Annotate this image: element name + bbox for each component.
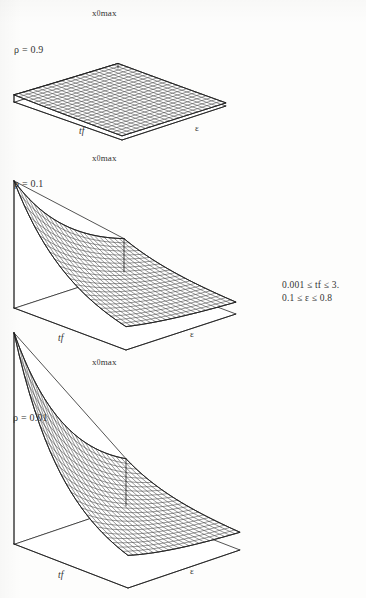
x-axis-label: tf — [58, 570, 64, 580]
x-axis-label: tf — [58, 333, 64, 343]
y-axis-label: ε — [195, 123, 199, 133]
z-axis-label: x0max — [92, 357, 117, 367]
y-axis-label: ε — [190, 329, 194, 339]
z-axis-label: x0max — [92, 8, 117, 18]
range-line-epsilon: 0.1 ≤ ε ≤ 0.8 — [282, 292, 339, 305]
surface-panel-rho-0-1: x0max ρ = 0.1 tf ε — [0, 148, 270, 353]
rho-parameter-label: ρ = 0.9 — [14, 44, 44, 55]
range-annotation: 0.001 ≤ tf ≤ 3. 0.1 ≤ ε ≤ 0.8 — [282, 279, 339, 305]
y-axis-label: ε — [190, 566, 194, 576]
rho-parameter-label: ρ = 0.01 — [13, 412, 48, 423]
rho-parameter-label: ρ = 0.1 — [14, 178, 44, 189]
z-axis-label: x0max — [92, 153, 117, 163]
range-line-tf: 0.001 ≤ tf ≤ 3. — [282, 279, 339, 292]
surface-panel-rho-0-01: x0max ρ = 0.01 tf ε — [0, 352, 270, 598]
surface-plot-svg — [0, 2, 270, 152]
figure-root: x0max ρ = 0.9 tf ε x0max ρ = 0.1 tf ε x0… — [0, 0, 366, 598]
surface-panel-rho-0-9: x0max ρ = 0.9 tf ε — [0, 2, 270, 152]
surface-plot-svg — [0, 352, 270, 598]
x-axis-label: tf — [79, 126, 85, 136]
